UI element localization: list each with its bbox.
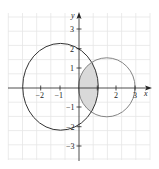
- y-tick-label: 1: [70, 64, 74, 73]
- x-axis-label: x: [143, 89, 148, 98]
- y-tick-label: 3: [70, 25, 74, 34]
- axes: [8, 16, 148, 161]
- y-axis-label: y: [70, 11, 75, 20]
- x-tick-label: −2: [36, 91, 45, 100]
- x-tick-label: −1: [55, 91, 64, 100]
- x-tick-label: 3: [133, 91, 137, 100]
- y-tick-label: −2: [66, 123, 75, 132]
- y-tick-label: 2: [70, 45, 74, 54]
- y-tick-label: −1: [66, 103, 75, 112]
- y-tick-label: −3: [66, 142, 75, 151]
- diagram: x y −2 −1 2 3 3 2 1 −1 −2 −3: [0, 0, 159, 169]
- x-tick-label: 2: [114, 91, 118, 100]
